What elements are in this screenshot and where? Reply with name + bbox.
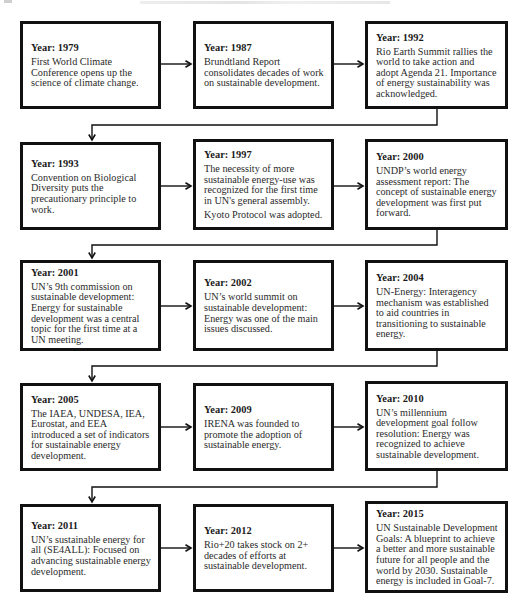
timeline-box-2000: Year: 2000 UNDP’s world energy assessmen… [365, 139, 508, 230]
arrow-1992-1993 [92, 108, 437, 140]
timeline-box-2009: Year: 2009 IRENA was founded to promote … [193, 383, 334, 471]
year-label: Year: 2009 [204, 404, 324, 416]
event-description: The IAEA, UNDESA, IEA, Eurostat, and EEA… [31, 409, 151, 462]
running-head-text [140, 1, 390, 4]
year-label: Year: 2015 [376, 508, 498, 520]
arrow-2004-2005 [92, 350, 437, 381]
year-label: Year: 1992 [376, 32, 498, 44]
event-description: UN’s sustainable energy for all (SE4ALL)… [31, 535, 151, 577]
page-header-strip [0, 0, 527, 8]
year-label: Year: 1987 [204, 42, 324, 54]
event-description: UN’s 9th commission on sustainable devel… [31, 282, 151, 346]
year-label: Year: 1993 [31, 158, 151, 170]
event-description: Rio Earth Summit rallies the world to ta… [376, 47, 498, 100]
timeline-box-2002: Year: 2002 UN’s world summit on sustaina… [193, 260, 334, 351]
event-description-extra: Kyoto Protocol was adopted. [204, 210, 324, 221]
event-description: Rio+20 takes stock on 2+ decades of effo… [204, 540, 324, 572]
event-description: UN Sustainable Development Goals: A blue… [376, 523, 498, 587]
timeline-box-2010: Year: 2010 UN’s millennium development g… [365, 381, 508, 471]
event-description: UNDP’s world energy assessment report: T… [376, 166, 498, 219]
event-description: Brundtland Report consolidates decades o… [204, 57, 324, 89]
year-label: Year: 2000 [376, 151, 498, 163]
year-label: Year: 2005 [31, 394, 151, 406]
year-label: Year: 2010 [376, 393, 498, 405]
year-label: Year: 2001 [31, 267, 151, 279]
page-number-mark [4, 0, 12, 3]
timeline-box-1997: Year: 1997 The necessity of more sustain… [193, 139, 334, 230]
timeline-box-1987: Year: 1987 Brundtland Report consolidate… [193, 21, 334, 109]
event-description: UN’s millennium development goal follow … [376, 408, 498, 461]
timeline-box-2011: Year: 2011 UN’s sustainable energy for a… [20, 504, 161, 592]
timeline-box-1992: Year: 1992 Rio Earth Summit rallies the … [365, 21, 508, 109]
timeline-box-1979: Year: 1979 First World Climate Conferenc… [20, 21, 161, 109]
timeline-box-1993: Year: 1993 Convention on Biological Dive… [20, 142, 161, 230]
event-description: IRENA was founded to promote the adoptio… [204, 419, 324, 451]
arrow-2010-2011 [92, 470, 437, 502]
year-label: Year: 2002 [204, 277, 324, 289]
year-label: Year: 2011 [31, 520, 151, 532]
timeline-box-2004: Year: 2004 UN-Energy: Interagency mechan… [365, 260, 508, 351]
event-description: The necessity of more sustainable energy… [204, 164, 324, 206]
year-label: Year: 1979 [31, 42, 151, 54]
year-label: Year: 2004 [376, 272, 498, 284]
year-label: Year: 1997 [204, 149, 324, 161]
event-description: UN-Energy: Interagency mechanism was est… [376, 287, 498, 340]
timeline-box-2012: Year: 2012 Rio+20 takes stock on 2+ deca… [193, 504, 334, 592]
event-description: Convention on Biological Diversity puts … [31, 173, 151, 215]
arrow-2000-2001 [92, 229, 437, 258]
timeline-box-2001: Year: 2001 UN’s 9th commission on sustai… [20, 260, 161, 351]
timeline-box-2015: Year: 2015 UN Sustainable Development Go… [365, 501, 508, 593]
event-description: First World Climate Conference opens up … [31, 57, 151, 89]
timeline-box-2005: Year: 2005 The IAEA, UNDESA, IEA, Eurost… [20, 383, 161, 471]
year-label: Year: 2012 [204, 525, 324, 537]
event-description: UN’s world summit on sustainable develop… [204, 292, 324, 334]
